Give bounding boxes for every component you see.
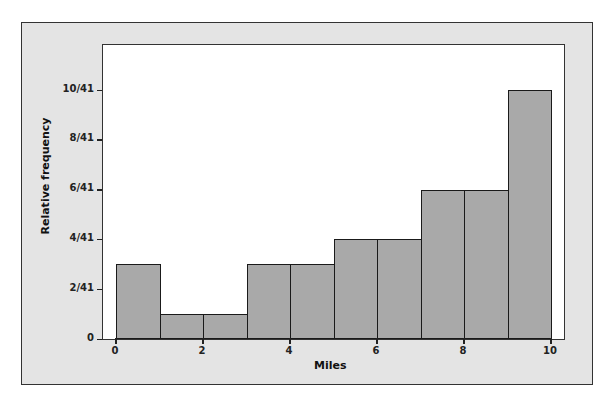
histogram-bar — [464, 190, 509, 339]
x-tick-label: 2 — [187, 345, 217, 356]
y-tick-label: 2/41 — [50, 282, 94, 293]
y-tick-label: 4/41 — [50, 232, 94, 243]
y-tick-label: 6/41 — [50, 182, 94, 193]
histogram-bar — [116, 264, 161, 339]
x-tick-label: 10 — [535, 345, 565, 356]
x-tick — [202, 338, 204, 344]
histogram-bar — [334, 239, 379, 339]
histogram-bar — [377, 239, 422, 339]
x-tick — [550, 338, 552, 344]
x-tick — [376, 338, 378, 344]
x-tick-label: 4 — [274, 345, 304, 356]
x-tick — [289, 338, 291, 344]
x-tick-label: 8 — [448, 345, 478, 356]
plot-area — [102, 44, 565, 340]
y-tick-label: 10/41 — [50, 83, 94, 94]
histogram-bar — [203, 314, 248, 339]
histogram-bar — [290, 264, 335, 339]
y-tick-label: 0 — [50, 332, 94, 343]
histogram-bar — [508, 90, 553, 339]
histogram-bar — [160, 314, 205, 339]
x-tick — [115, 338, 117, 344]
x-tick-label: 0 — [100, 345, 130, 356]
y-tick-label: 8/41 — [50, 132, 94, 143]
chart-frame: Relative frequency 02/414/416/418/4110/4… — [21, 22, 593, 385]
x-tick-label: 6 — [361, 345, 391, 356]
x-tick — [463, 338, 465, 344]
x-axis-label: Miles — [314, 359, 347, 372]
histogram-bar — [247, 264, 292, 339]
histogram-bar — [421, 190, 466, 339]
